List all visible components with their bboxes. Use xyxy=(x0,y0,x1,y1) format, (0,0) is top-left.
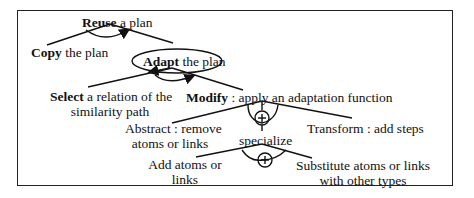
node-abstract: Abstract : remove atoms or links xyxy=(125,121,215,151)
node-add: Add atoms or links xyxy=(145,157,225,187)
sequence-arc-1 xyxy=(86,30,128,37)
node-adapt: Adapt the plan xyxy=(143,54,226,69)
node-substitute: Substitute atoms or links with other typ… xyxy=(288,158,438,188)
node-transform: Transform : add steps xyxy=(307,121,424,136)
node-select: Select a relation of the similarity path xyxy=(50,89,170,119)
node-specialize: specialize xyxy=(239,133,292,148)
node-modify: Modify : apply an adaptation function xyxy=(186,90,393,105)
node-reuse: Reuse a plan xyxy=(82,15,153,30)
sequence-arc-2 xyxy=(155,75,193,81)
node-copy: Copy the plan xyxy=(31,45,108,60)
